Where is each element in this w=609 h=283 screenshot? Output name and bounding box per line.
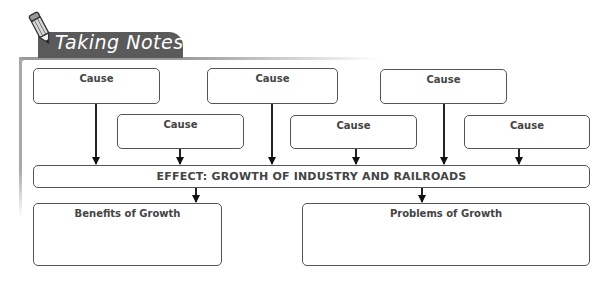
cause-box-top-3[interactable]: Cause: [380, 69, 507, 104]
cause-box-middle-1[interactable]: Cause: [117, 114, 244, 149]
cause-label: Cause: [118, 119, 243, 130]
pencil-icon: [28, 10, 54, 48]
effect-box[interactable]: EFFECT: GROWTH OF INDUSTRY AND RAILROADS: [33, 165, 590, 188]
arrow-down-icon: [443, 104, 445, 164]
frame-corner: [19, 57, 29, 67]
page-title: Taking Notes: [55, 31, 184, 53]
cause-label: Cause: [208, 73, 337, 84]
arrow-down-icon: [271, 104, 273, 164]
arrow-down-icon: [195, 188, 197, 202]
cause-box-middle-3[interactable]: Cause: [464, 115, 590, 149]
effect-label: EFFECT: GROWTH OF INDUSTRY AND RAILROADS: [34, 170, 589, 183]
problems-box[interactable]: Problems of Growth: [302, 203, 590, 266]
cause-label: Cause: [381, 74, 506, 85]
arrow-down-icon: [421, 188, 423, 202]
arrow-down-icon: [518, 149, 520, 164]
problems-label: Problems of Growth: [303, 208, 589, 219]
arrow-down-icon: [355, 149, 357, 164]
cause-box-top-2[interactable]: Cause: [207, 68, 338, 104]
benefits-label: Benefits of Growth: [34, 208, 221, 219]
cause-label: Cause: [34, 73, 159, 84]
cause-label: Cause: [465, 120, 589, 131]
cause-label: Cause: [291, 120, 416, 131]
arrow-down-icon: [95, 104, 97, 164]
benefits-box[interactable]: Benefits of Growth: [33, 203, 222, 266]
frame-left-border: [19, 57, 22, 217]
cause-box-top-1[interactable]: Cause: [33, 68, 160, 104]
arrow-down-icon: [179, 149, 181, 164]
cause-box-middle-2[interactable]: Cause: [290, 115, 417, 149]
